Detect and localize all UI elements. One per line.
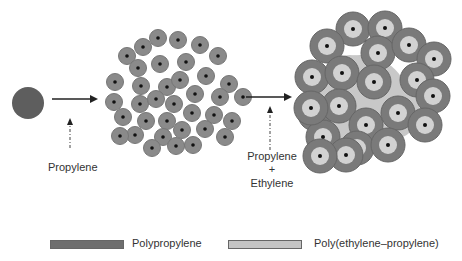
polypropylene-cluster	[106, 30, 252, 157]
legend-swatch-epr	[228, 240, 302, 249]
legend-label-polypropylene: Polypropylene	[132, 237, 202, 250]
catalyst-particle	[12, 87, 44, 119]
arrow-right-icon	[52, 95, 98, 103]
dashdot-arrow-up-icon	[67, 118, 73, 148]
propylene-label: Propylene	[48, 161, 108, 174]
impact-copolymer-cluster	[294, 11, 451, 173]
arrow-right-icon	[246, 93, 292, 101]
polymerization-diagram	[0, 0, 462, 261]
propylene-ethylene-label-1: Propylene	[244, 150, 300, 163]
legend-swatch-polypropylene	[50, 240, 124, 249]
propylene-ethylene-label-2: Ethylene	[244, 177, 300, 190]
legend-label-epr: Poly(ethylene–propylene)	[314, 237, 439, 250]
plus-label: +	[244, 163, 300, 176]
dashdot-arrow-up-icon	[267, 106, 273, 150]
